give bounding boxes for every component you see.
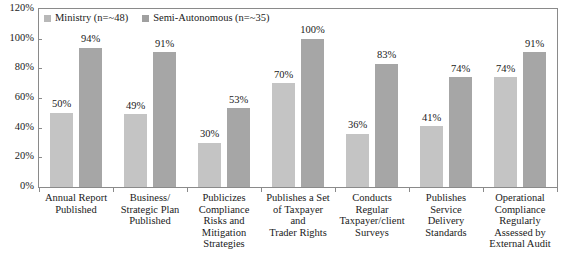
x-category-label-line: External Audit: [484, 238, 556, 250]
x-category-label-line: Annual Report: [40, 192, 112, 204]
bar-item[interactable]: 36%: [346, 9, 369, 187]
x-category-label-line: Service: [410, 204, 482, 216]
bar-item[interactable]: 94%: [79, 9, 102, 187]
x-category-label-line: Standards: [410, 227, 482, 239]
y-tick-label: 120%: [10, 3, 35, 14]
bar-item[interactable]: 53%: [227, 9, 250, 187]
y-tick-mark: [38, 128, 42, 129]
bar-value-label: 49%: [126, 101, 145, 112]
x-category-label-line: Assessed by: [484, 227, 556, 239]
x-category-label-line: Compliance: [188, 204, 260, 216]
bar-group: 41%74%: [409, 9, 483, 187]
y-tick-label: 80%: [15, 62, 34, 73]
x-category-label: OperationalComplianceRegularlyAssessed b…: [483, 192, 557, 250]
x-category-label-line: Conducts: [336, 192, 408, 204]
x-category-label-line: Publicizes: [188, 192, 260, 204]
legend-item[interactable]: Semi-Autonomous (n=~35): [142, 13, 269, 24]
bar[interactable]: [301, 39, 324, 187]
bar-value-label: 70%: [274, 70, 293, 81]
bar-value-label: 91%: [525, 39, 544, 50]
y-tick-mark: [38, 187, 42, 188]
x-category-label-line: Publishes a Set: [262, 192, 334, 204]
bar-value-label: 100%: [300, 25, 325, 36]
y-tick-mark: [38, 157, 42, 158]
bar-group: 70%100%: [261, 9, 335, 187]
bar-value-label: 50%: [52, 99, 71, 110]
bar-item[interactable]: 74%: [494, 9, 517, 187]
x-category-label-line: Operational: [484, 192, 556, 204]
x-category-label-line: Taxpayer/client: [336, 215, 408, 227]
x-category-label: PublicizesComplianceRisks andMitigationS…: [187, 192, 261, 250]
bar[interactable]: [198, 143, 221, 188]
bar-item[interactable]: 74%: [449, 9, 472, 187]
x-category-label: Business/Strategic PlanPublished: [113, 192, 187, 250]
x-category-label: Publishes a Setof TaxpayerandTrader Righ…: [261, 192, 335, 250]
x-category-label-line: Regular: [336, 204, 408, 216]
bar-value-label: 83%: [377, 50, 396, 61]
chart-legend: Ministry (n=~48)Semi-Autonomous (n=~35): [44, 13, 269, 24]
bar-value-label: 53%: [229, 95, 248, 106]
y-tick-label: 40%: [15, 121, 34, 132]
legend-item[interactable]: Ministry (n=~48): [44, 13, 128, 24]
bar[interactable]: [375, 64, 398, 187]
x-category-label-line: Risks and: [188, 215, 260, 227]
x-category-label-line: Compliance: [484, 204, 556, 216]
bar-value-label: 74%: [496, 64, 515, 75]
y-tick-label: 100%: [10, 32, 35, 43]
bar-group: 50%94%: [39, 9, 113, 187]
y-tick-mark: [38, 98, 42, 99]
bar-value-label: 94%: [81, 34, 100, 45]
bar-item[interactable]: 50%: [50, 9, 73, 187]
bar[interactable]: [449, 77, 472, 187]
bar[interactable]: [124, 114, 147, 187]
bar-item[interactable]: 91%: [153, 9, 176, 187]
x-category-label-line: Strategic Plan: [114, 204, 186, 216]
bar-item[interactable]: 100%: [301, 9, 324, 187]
bar[interactable]: [227, 108, 250, 187]
legend-label: Semi-Autonomous (n=~35): [153, 13, 269, 24]
x-axis-categories: Annual ReportPublishedBusiness/Strategic…: [39, 192, 557, 250]
bar-group: 74%91%: [483, 9, 557, 187]
y-tick-label: 20%: [15, 151, 34, 162]
x-category-label-line: and: [262, 215, 334, 227]
bar[interactable]: [272, 83, 295, 187]
y-axis-labels: 0%20%40%60%80%100%120%: [0, 8, 34, 188]
x-tick-mark: [557, 188, 558, 192]
x-category-label-line: Published: [40, 204, 112, 216]
bar-item[interactable]: 91%: [523, 9, 546, 187]
x-category-label: Annual ReportPublished: [39, 192, 113, 250]
bar-item[interactable]: 49%: [124, 9, 147, 187]
bar-value-label: 91%: [155, 39, 174, 50]
bar[interactable]: [153, 52, 176, 187]
y-tick-label: 60%: [15, 92, 34, 103]
x-category-label-line: of Taxpayer: [262, 204, 334, 216]
x-category-label-line: Surveys: [336, 227, 408, 239]
bar-value-label: 74%: [451, 64, 470, 75]
x-category-label-line: Business/: [114, 192, 186, 204]
bar-value-label: 36%: [348, 120, 367, 131]
bar-group: 36%83%: [335, 9, 409, 187]
x-category-label-line: Published: [114, 215, 186, 227]
bar[interactable]: [494, 77, 517, 187]
bar[interactable]: [50, 113, 73, 187]
y-tick-label: 0%: [20, 181, 34, 192]
bar-group: 49%91%: [113, 9, 187, 187]
bar-group: 30%53%: [187, 9, 261, 187]
bar-item[interactable]: 30%: [198, 9, 221, 187]
bar-value-label: 41%: [422, 113, 441, 124]
legend-swatch-icon: [142, 15, 149, 22]
bar-groups: 50%94%49%91%30%53%70%100%36%83%41%74%74%…: [39, 9, 557, 187]
bar-item[interactable]: 70%: [272, 9, 295, 187]
bar[interactable]: [346, 134, 369, 187]
bar[interactable]: [523, 52, 546, 187]
legend-label: Ministry (n=~48): [55, 13, 128, 24]
chart-root: 0%20%40%60%80%100%120% 50%94%49%91%30%53…: [0, 0, 569, 253]
bar-item[interactable]: 83%: [375, 9, 398, 187]
x-category-label: PublishesServiceDeliveryStandards: [409, 192, 483, 250]
x-category-label-line: Delivery: [410, 215, 482, 227]
bar[interactable]: [79, 48, 102, 187]
bar[interactable]: [420, 126, 443, 187]
y-tick-mark: [38, 39, 42, 40]
x-category-label-line: Trader Rights: [262, 227, 334, 239]
bar-item[interactable]: 41%: [420, 9, 443, 187]
